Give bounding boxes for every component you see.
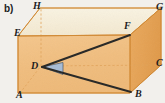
vertex-label-H: H	[33, 1, 41, 11]
vertex-label-F: F	[124, 21, 131, 31]
vertex-label-E: E	[14, 28, 21, 38]
figure-container: b) H G E F D C A B	[0, 0, 165, 103]
vertex-label-C: C	[156, 58, 163, 68]
vertex-label-G: G	[156, 2, 163, 12]
vertex-label-B: B	[135, 89, 142, 99]
vertex-label-A: A	[16, 90, 23, 100]
vertex-label-D: D	[31, 61, 38, 71]
part-label: b)	[4, 4, 13, 14]
